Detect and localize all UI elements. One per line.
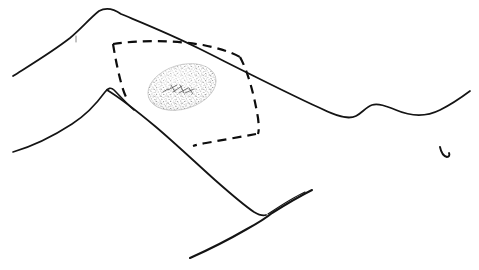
drawing-background — [0, 0, 479, 270]
anatomical-line-drawing — [0, 0, 479, 270]
figure-canvas: Anatomical line drawing of torso with ma… — [0, 0, 479, 270]
